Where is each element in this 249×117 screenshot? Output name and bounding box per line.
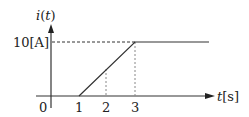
y-axis-arrow-icon — [48, 24, 54, 33]
x-axis-arrow-icon — [205, 93, 215, 99]
tick-label-2: 2 — [102, 100, 110, 115]
current-waveform-chart: i(t) 10[A] 0 1 2 3 t[s] — [0, 0, 249, 117]
current-waveform — [79, 42, 209, 96]
y-axis-label: i(t) — [36, 8, 56, 23]
x-axis-label: t[s] — [217, 89, 239, 104]
tick-label-3: 3 — [131, 100, 139, 115]
origin-label: 0 — [39, 100, 47, 115]
y-value-label: 10[A] — [13, 35, 49, 50]
tick-label-1: 1 — [75, 100, 83, 115]
